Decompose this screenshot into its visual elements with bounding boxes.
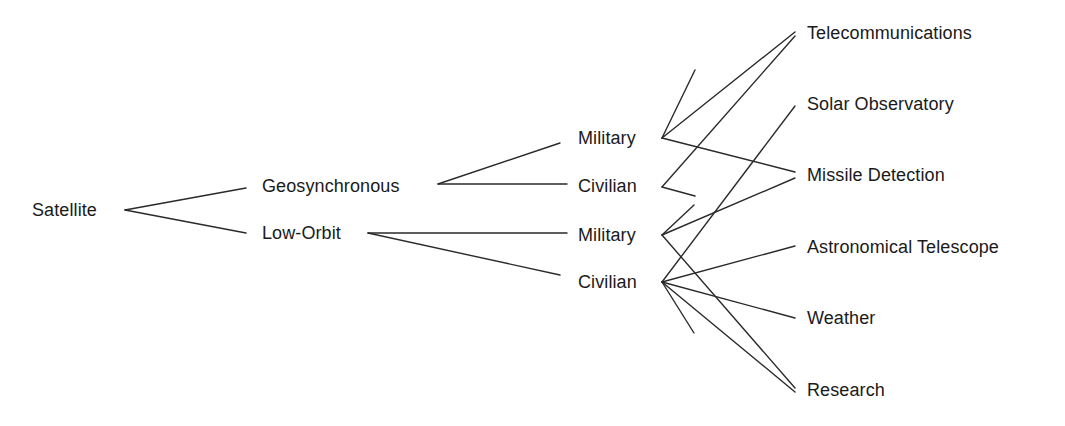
node-astronomical-telescope: Astronomical Telescope bbox=[807, 236, 999, 258]
node-satellite: Satellite bbox=[32, 199, 97, 221]
node-low-civilian: Civilian bbox=[578, 271, 637, 293]
node-geo-military: Military bbox=[578, 127, 636, 149]
node-geosynchronous: Geosynchronous bbox=[262, 175, 399, 197]
edge-low-orbit-to-low-civilian bbox=[368, 233, 560, 275]
edge-low-military-to-research bbox=[662, 235, 795, 388]
node-telecommunications: Telecommunications bbox=[807, 22, 972, 44]
edge-geo-civilian-to-telecommunications bbox=[662, 36, 795, 187]
node-low-orbit: Low-Orbit bbox=[262, 222, 341, 244]
edge-geo-military-to-stub bbox=[662, 70, 695, 138]
node-missile-detection: Missile Detection bbox=[807, 164, 945, 186]
node-geo-civilian: Civilian bbox=[578, 175, 637, 197]
node-weather: Weather bbox=[807, 307, 875, 329]
edge-satellite-to-low-orbit bbox=[125, 210, 246, 233]
edge-layer bbox=[0, 0, 1065, 426]
node-research: Research bbox=[807, 379, 885, 401]
edge-low-civilian-to-research bbox=[662, 282, 795, 392]
edge-geosynchronous-to-geo-military bbox=[438, 143, 560, 184]
edge-low-military-to-missile-detection bbox=[662, 178, 795, 235]
edge-geo-civilian-to-stub bbox=[662, 187, 695, 196]
edge-low-civilian-to-astronomical-telescope bbox=[662, 246, 795, 282]
node-low-military: Military bbox=[578, 224, 636, 246]
edge-low-military-to-stub bbox=[662, 205, 694, 235]
edge-satellite-to-geosynchronous bbox=[125, 188, 246, 210]
node-solar-observatory: Solar Observatory bbox=[807, 93, 954, 115]
edge-geo-military-to-missile-detection bbox=[662, 138, 795, 172]
satellite-classification-tree: Satellite Geosynchronous Low-Orbit Milit… bbox=[0, 0, 1065, 426]
edge-low-civilian-to-solar-observatory bbox=[662, 106, 795, 282]
edge-geo-military-to-telecommunications bbox=[662, 32, 795, 138]
